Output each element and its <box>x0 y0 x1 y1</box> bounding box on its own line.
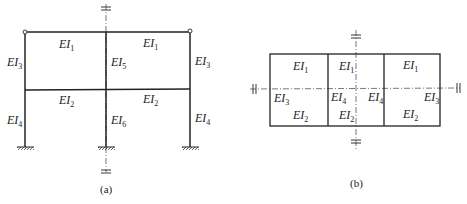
label-inner-right-b: EI4 <box>367 90 383 106</box>
label-top-left-b: EI1 <box>292 59 308 75</box>
fixed-support-left <box>17 147 34 150</box>
label-left-side-b: EI3 <box>273 91 289 107</box>
frame-a: EI1 EI1 EI3 EI5 EI3 EI2 EI2 EI4 EI6 EI4 … <box>6 4 210 196</box>
label-lower-col-left: EI4 <box>6 113 22 129</box>
label-top-mid-b: EI1 <box>338 59 354 75</box>
hinge-left <box>23 30 27 34</box>
caption-a: (a) <box>100 183 113 196</box>
fixed-support-right <box>182 147 199 150</box>
hinge-right <box>188 29 192 33</box>
diagram-canvas: EI1 EI1 EI3 EI5 EI3 EI2 EI2 EI4 EI6 EI4 … <box>0 0 467 204</box>
horizontal-symmetry-axis-b <box>250 88 460 89</box>
label-mid-beam-right: EI2 <box>142 92 158 108</box>
label-top-beam-left: EI1 <box>58 37 74 53</box>
label-bottom-right-b: EI2 <box>402 107 418 123</box>
label-bottom-left-b: EI2 <box>292 108 308 124</box>
label-mid-beam-left: EI2 <box>58 93 74 109</box>
label-inner-left-b: EI4 <box>330 90 346 106</box>
fixed-support-middle <box>98 147 115 150</box>
label-bottom-mid-b: EI2 <box>338 108 354 124</box>
symmetry-mark-top-b <box>351 35 361 38</box>
label-upper-col-left: EI3 <box>6 55 22 71</box>
label-upper-col-mid: EI5 <box>110 55 126 71</box>
caption-b: (b) <box>350 177 363 190</box>
label-right-side-b: EI3 <box>423 90 439 106</box>
label-lower-col-right: EI4 <box>194 111 210 127</box>
label-top-beam-right: EI1 <box>142 36 158 52</box>
symmetry-mark-right-b <box>457 83 460 93</box>
label-upper-col-right: EI3 <box>194 54 210 70</box>
label-top-right-b: EI1 <box>402 58 418 74</box>
middle-beam <box>25 89 190 90</box>
label-lower-col-mid: EI6 <box>110 113 126 129</box>
frame-b: EI1 EI1 EI1 EI3 EI4 EI4 EI3 EI2 EI2 EI2 … <box>250 30 460 190</box>
